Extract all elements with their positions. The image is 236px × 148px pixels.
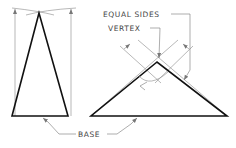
- dim-arrow-left: [124, 44, 130, 49]
- base-label: BASE: [78, 130, 100, 139]
- isosceles-triangle-diagram: EQUAL SIDES VERTEX BASE: [0, 0, 236, 148]
- vertex-leader: [150, 28, 160, 58]
- equal-sides-leader: [171, 14, 190, 80]
- wide-isosceles-triangle: [91, 62, 227, 116]
- vertex-label: VERTEX: [108, 24, 141, 33]
- base-leader-left: [43, 118, 76, 134]
- base-leader-right: [107, 118, 137, 134]
- equal-sides-label: EQUAL SIDES: [103, 10, 160, 19]
- construction-arc-left: [12, 8, 54, 15]
- dim-arrow-right: [183, 44, 189, 49]
- tall-isosceles-triangle: [12, 13, 68, 116]
- angle-leader: [140, 82, 147, 90]
- construction-line-right: [138, 40, 227, 116]
- left-triangle-group: [12, 8, 76, 116]
